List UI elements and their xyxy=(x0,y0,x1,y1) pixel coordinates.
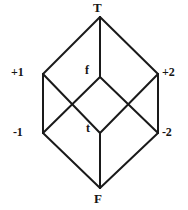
node-label-false-f: f xyxy=(85,64,89,76)
edge-minustwo-bottom xyxy=(100,133,158,188)
edges-group xyxy=(43,17,158,188)
edge-top-plusone xyxy=(43,17,100,74)
edge-minusone-bottom xyxy=(43,133,100,188)
node-label-bottom: F xyxy=(94,192,102,205)
edge-top-plustwo xyxy=(100,17,158,74)
node-label-top: T xyxy=(93,1,101,14)
node-label-minus-one: -1 xyxy=(13,126,23,138)
node-label-plus-one: +1 xyxy=(11,66,23,78)
node-label-plus-two: +2 xyxy=(162,66,174,78)
lattice-edges-canvas xyxy=(0,0,188,210)
node-label-true-t: t xyxy=(86,122,90,134)
lattice-diagram: T+1f+2-1t-2F xyxy=(0,0,188,210)
node-label-minus-two: -2 xyxy=(162,126,172,138)
